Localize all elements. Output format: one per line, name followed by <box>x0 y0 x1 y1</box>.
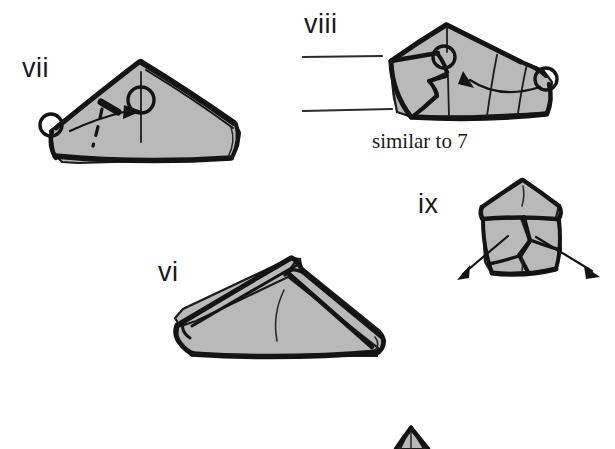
step-viii-caption: similar to 7 <box>372 129 468 153</box>
step-ix-lower-crease <box>522 258 523 271</box>
step-vi-label: vi <box>158 257 179 287</box>
step-vii-label: vii <box>22 53 49 83</box>
step-ix-roof-base-edge <box>483 218 556 220</box>
diagram-page: vii <box>0 0 615 449</box>
step-viii-crease-center <box>448 78 449 117</box>
step-ix-label: ix <box>418 189 439 219</box>
step-viii-label: viii <box>304 9 338 39</box>
step-viii-rule-upper <box>303 56 382 57</box>
origami-sequence-illustration: vii <box>0 0 615 449</box>
